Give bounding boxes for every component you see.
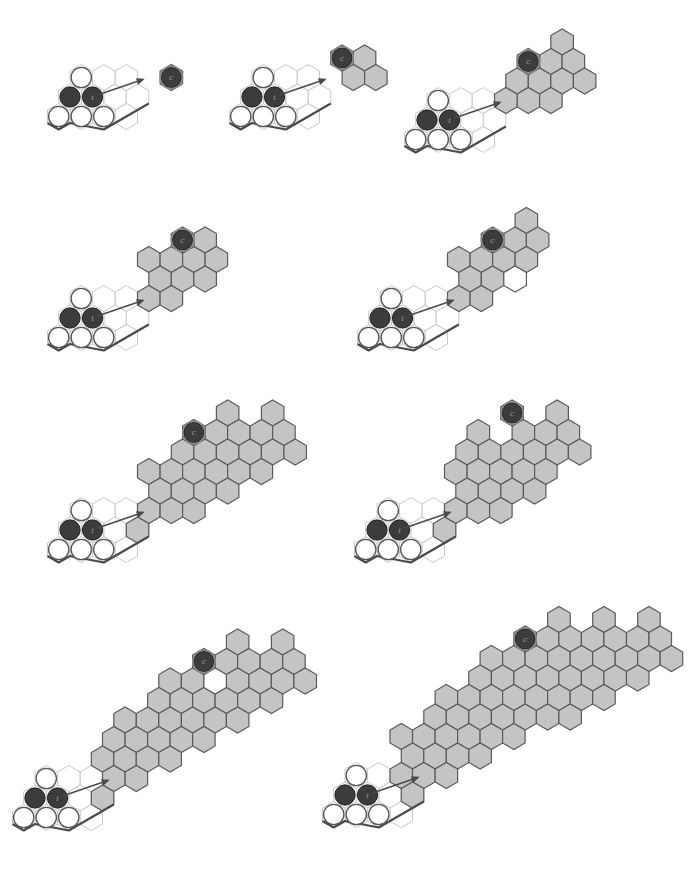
goal-stone-label: c — [526, 57, 531, 66]
hex-cell-shaded — [627, 665, 650, 691]
goal-stone-label: c — [169, 73, 174, 82]
white-stone — [71, 539, 91, 559]
dark-stone — [25, 788, 45, 808]
hex-cell-shaded — [183, 498, 206, 524]
white-stone — [94, 327, 114, 347]
start-stone-label: i — [273, 93, 276, 102]
white-stone — [253, 67, 273, 87]
white-stone — [276, 106, 296, 126]
hex-cell-shaded — [160, 286, 183, 312]
start-stone-label: i — [366, 791, 369, 800]
goal-stone-label: c — [202, 657, 207, 666]
start-stone-label: i — [448, 116, 451, 125]
hex-cell-shaded — [194, 266, 217, 292]
dark-stone — [417, 110, 437, 130]
hex-cell-shaded — [470, 286, 493, 312]
hex-cell-shaded — [125, 766, 148, 792]
hex-cell-shaded — [536, 704, 559, 730]
white-stone — [59, 807, 79, 827]
dark-stone — [242, 87, 262, 107]
white-stone — [428, 90, 448, 110]
start-stone-label: i — [56, 794, 59, 803]
white-stone — [346, 804, 366, 824]
white-stone — [324, 804, 344, 824]
white-stone — [36, 807, 56, 827]
goal-stone-label: c — [180, 236, 185, 245]
hex-cell-shaded — [294, 668, 317, 694]
white-stone — [71, 327, 91, 347]
hex-cell-shaded — [540, 88, 563, 114]
start-stone-label: i — [91, 314, 94, 323]
dark-stone — [60, 308, 80, 328]
dark-stone — [370, 308, 390, 328]
hex-cell-shaded — [160, 498, 183, 524]
panel-6: ic — [48, 400, 307, 563]
white-stone — [369, 804, 389, 824]
hex-cell-shaded — [216, 478, 239, 504]
hex-cell-shaded — [250, 459, 273, 485]
hex-cell-shaded — [467, 498, 490, 524]
hex-cell-shaded — [495, 88, 518, 114]
hex-cell-shaded — [490, 498, 512, 524]
hex-cell-shaded — [260, 688, 283, 714]
hex-cell-shaded — [660, 646, 683, 672]
panel-2: ic — [230, 45, 388, 130]
panel-5: ic — [358, 208, 549, 351]
white-stone — [49, 539, 69, 559]
goal-stone-label: c — [523, 635, 528, 644]
white-stone — [71, 106, 91, 126]
white-stone — [406, 129, 426, 149]
white-stone — [231, 106, 251, 126]
dark-stone — [335, 785, 355, 805]
hex-cell-shaded — [284, 439, 307, 465]
hex-cell-shaded — [365, 65, 388, 91]
hex-cell-shaded — [138, 286, 161, 312]
white-stone — [49, 327, 69, 347]
white-stone — [253, 106, 273, 126]
white-stone — [378, 539, 398, 559]
white-stone — [428, 129, 448, 149]
white-stone — [401, 539, 421, 559]
hex-cell-shaded — [559, 704, 582, 730]
hex-cell-shaded — [568, 439, 591, 465]
panel-7: ic — [355, 400, 591, 563]
white-stone — [71, 67, 91, 87]
white-stone — [94, 106, 114, 126]
dark-stone — [367, 520, 387, 540]
white-stone — [36, 768, 56, 788]
white-stone — [49, 106, 69, 126]
hex-cell-shaded — [193, 727, 216, 753]
panel-9: ic — [323, 607, 683, 828]
white-stone — [381, 327, 401, 347]
start-stone-label: i — [91, 526, 94, 535]
white-stone — [451, 129, 471, 149]
hex-cell-shaded — [573, 68, 596, 94]
panel-8: ic — [13, 629, 317, 831]
white-stone — [71, 500, 91, 520]
hex-cell-shaded — [469, 743, 492, 769]
white-stone — [346, 765, 366, 785]
hex-template-figure: icicicicicicicicic — [0, 0, 692, 880]
hex-cell-shaded — [503, 724, 525, 750]
goal-stone-label: c — [340, 54, 345, 63]
hex-cell-shaded — [523, 478, 546, 504]
start-stone-label: i — [91, 93, 94, 102]
start-stone-label: i — [398, 526, 401, 535]
hex-cell-hole — [504, 266, 527, 292]
hex-cell-shaded — [448, 286, 471, 312]
dark-stone — [60, 87, 80, 107]
white-stone — [71, 288, 91, 308]
white-stone — [404, 327, 424, 347]
goal-stone-label: c — [192, 428, 197, 437]
white-stone — [381, 288, 401, 308]
hex-cell-shaded — [159, 746, 182, 772]
white-stone — [378, 500, 398, 520]
hex-cell-shaded — [517, 88, 540, 114]
white-stone — [359, 327, 379, 347]
white-stone — [14, 807, 34, 827]
panel-4: ic — [48, 227, 228, 351]
start-stone-label: i — [401, 314, 404, 323]
white-stone — [94, 539, 114, 559]
dark-stone — [60, 520, 80, 540]
goal-stone-label: c — [510, 409, 515, 418]
